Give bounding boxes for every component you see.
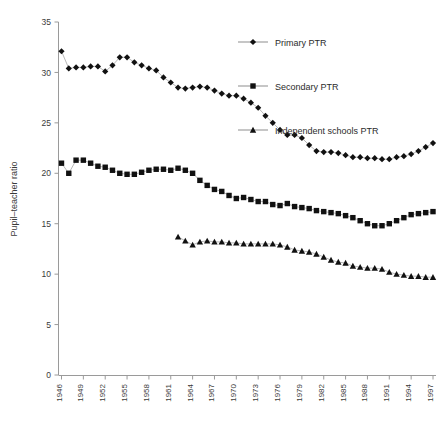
data-point-marker xyxy=(219,189,224,194)
data-point-marker xyxy=(139,62,145,68)
legend-label: Secondary PTR xyxy=(275,82,339,92)
data-point-marker xyxy=(241,195,246,200)
data-point-marker xyxy=(226,193,231,198)
data-point-marker xyxy=(175,84,181,90)
data-point-marker xyxy=(423,210,428,215)
series-primary-ptr xyxy=(58,48,436,162)
data-point-marker xyxy=(124,54,130,60)
legend-item-independent-schools-ptr[interactable]: Independent schools PTR xyxy=(238,126,379,136)
data-point-marker xyxy=(372,223,377,228)
data-point-marker xyxy=(321,209,326,214)
data-point-marker xyxy=(124,172,129,177)
data-point-marker xyxy=(284,244,290,250)
data-point-marker xyxy=(321,149,327,155)
data-point-marker xyxy=(342,152,348,158)
data-point-marker xyxy=(250,39,256,45)
data-point-marker xyxy=(175,234,181,240)
x-axis-tick-label: 1979 xyxy=(295,383,304,401)
data-point-marker xyxy=(336,211,341,216)
data-point-marker xyxy=(255,199,260,204)
x-axis-tick-label: 1961 xyxy=(164,383,173,401)
data-point-marker xyxy=(73,157,78,162)
data-point-marker xyxy=(372,155,378,161)
legend-label: Independent schools PTR xyxy=(275,126,379,136)
data-point-marker xyxy=(66,65,72,71)
x-axis-tick-label: 1985 xyxy=(339,383,348,401)
data-point-marker xyxy=(131,59,137,65)
data-point-marker xyxy=(393,271,399,277)
data-point-marker xyxy=(401,153,407,159)
data-point-marker xyxy=(189,242,195,248)
y-axis-tick-label: 10 xyxy=(42,269,52,279)
data-point-marker xyxy=(88,63,94,69)
data-point-marker xyxy=(117,171,122,176)
data-point-marker xyxy=(95,164,100,169)
pupil-teacher-ratio-line-chart: 05101520253035 1946194919521955195819611… xyxy=(0,0,445,434)
data-point-marker xyxy=(416,211,421,216)
data-point-marker xyxy=(197,178,202,183)
data-point-marker xyxy=(387,221,392,226)
data-point-marker xyxy=(285,201,290,206)
data-point-marker xyxy=(241,96,247,102)
data-point-marker xyxy=(328,210,333,215)
data-point-marker xyxy=(299,205,304,210)
data-point-marker xyxy=(357,218,362,223)
data-point-marker xyxy=(393,154,399,160)
data-point-marker xyxy=(291,247,297,253)
chart-legend: Primary PTRSecondary PTRIndependent scho… xyxy=(238,38,379,136)
x-axis-tick-label: 1982 xyxy=(317,383,326,401)
x-axis-tick-label: 1967 xyxy=(207,383,216,401)
legend-item-secondary-ptr[interactable]: Secondary PTR xyxy=(238,82,339,92)
x-axis-tick-label: 1973 xyxy=(251,383,260,401)
data-point-marker xyxy=(183,168,188,173)
y-axis-tick-label: 0 xyxy=(46,370,51,380)
data-point-marker xyxy=(335,150,341,156)
data-point-marker xyxy=(73,64,79,70)
series-secondary-ptr xyxy=(59,157,436,228)
data-point-marker xyxy=(168,79,174,85)
data-point-marker xyxy=(335,259,341,265)
chart-container: 05101520253035 1946194919521955195819611… xyxy=(0,0,445,434)
data-point-marker xyxy=(408,151,414,157)
data-point-marker xyxy=(430,209,435,214)
data-point-marker xyxy=(226,93,232,99)
data-point-marker xyxy=(182,85,188,91)
data-point-marker xyxy=(190,171,195,176)
data-point-marker xyxy=(190,84,196,90)
legend-label: Primary PTR xyxy=(275,38,327,48)
x-axis-tick-label: 1976 xyxy=(273,383,282,401)
y-axis-tick-label: 5 xyxy=(46,320,51,330)
data-point-marker xyxy=(168,168,173,173)
x-axis-tick-label: 1991 xyxy=(382,383,391,401)
data-point-marker xyxy=(66,171,71,176)
data-point-marker xyxy=(350,154,356,160)
data-point-marker xyxy=(386,269,392,275)
data-point-marker xyxy=(204,238,210,244)
data-point-marker xyxy=(219,91,225,97)
data-point-marker xyxy=(80,64,86,70)
data-point-marker xyxy=(365,221,370,226)
data-point-marker xyxy=(146,168,151,173)
data-point-marker xyxy=(350,215,355,220)
data-point-marker xyxy=(408,212,413,217)
series-independent-schools-ptr xyxy=(175,234,436,280)
data-point-marker xyxy=(146,65,152,71)
data-point-marker xyxy=(250,83,255,88)
data-point-marker xyxy=(313,251,319,257)
plot-area xyxy=(58,48,436,280)
data-point-marker xyxy=(430,140,436,146)
data-point-marker xyxy=(314,208,319,213)
data-point-marker xyxy=(161,167,166,172)
x-axis-tick-label: 1970 xyxy=(229,383,238,401)
data-point-marker xyxy=(58,48,64,54)
data-point-marker xyxy=(204,84,210,90)
x-axis-tick-label: 1952 xyxy=(98,383,107,401)
data-point-marker xyxy=(306,206,311,211)
data-point-marker xyxy=(379,156,385,162)
x-axis-tick-label: 1949 xyxy=(76,383,85,401)
y-axis-tick-label: 20 xyxy=(42,168,52,178)
legend-item-primary-ptr[interactable]: Primary PTR xyxy=(238,38,327,48)
x-axis-tick-label: 1964 xyxy=(186,383,195,401)
x-axis-tick-label: 1997 xyxy=(426,383,435,401)
data-point-marker xyxy=(277,203,282,208)
